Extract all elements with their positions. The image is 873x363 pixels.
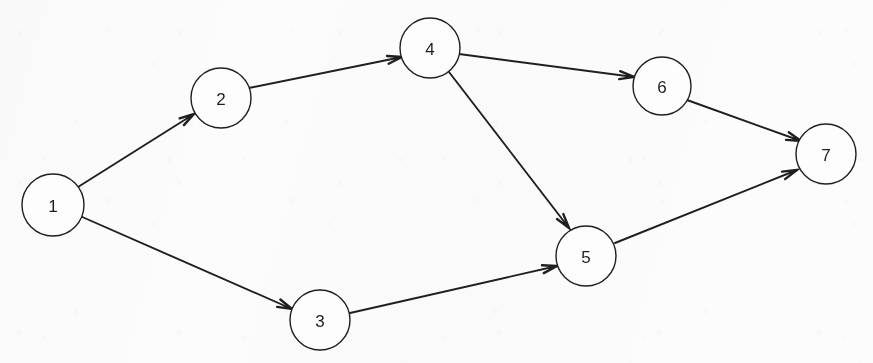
node-6[interactable]: 6 <box>633 57 691 115</box>
edge-6-to-7 <box>687 100 801 141</box>
edge-5-to-7 <box>615 170 797 243</box>
directed-graph: 1234567 <box>0 0 873 363</box>
node-label: 5 <box>581 248 590 267</box>
edge-line <box>459 54 634 77</box>
node-5[interactable]: 5 <box>556 226 616 286</box>
diagram-canvas: 1234567 <box>0 0 873 363</box>
edge-line <box>687 100 801 141</box>
node-label: 4 <box>425 40 434 59</box>
edge-2-to-4 <box>249 56 402 88</box>
edge-line <box>350 266 557 313</box>
edge-1-to-3 <box>80 216 292 309</box>
node-1[interactable]: 1 <box>22 174 84 236</box>
nodes-group: 1234567 <box>22 18 856 350</box>
edge-3-to-5 <box>350 265 557 313</box>
edge-line <box>78 114 194 187</box>
node-label: 1 <box>48 197 57 216</box>
edge-line <box>80 216 292 309</box>
node-4[interactable]: 4 <box>400 18 460 78</box>
node-label: 3 <box>315 312 324 331</box>
edge-4-to-6 <box>459 54 634 79</box>
edge-4-to-5 <box>449 72 569 228</box>
node-label: 2 <box>216 90 225 109</box>
edge-1-to-2 <box>78 114 194 187</box>
edge-line <box>449 72 569 228</box>
node-3[interactable]: 3 <box>290 290 350 350</box>
node-2[interactable]: 2 <box>191 68 251 128</box>
node-label: 6 <box>657 78 666 97</box>
edge-line <box>615 170 797 243</box>
edges-group <box>78 54 801 313</box>
node-label: 7 <box>821 146 830 165</box>
edge-line <box>249 57 402 88</box>
node-7[interactable]: 7 <box>796 124 856 184</box>
